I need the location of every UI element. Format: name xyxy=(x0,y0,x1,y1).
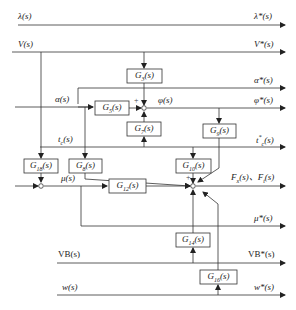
lambda-input-label: λ(s) xyxy=(18,12,31,21)
summing-junction-force xyxy=(191,184,196,189)
lambda-output-label: λ*(s) xyxy=(254,12,272,21)
plus-sign-g5: + xyxy=(134,96,139,105)
block-g8-label: G8(s) xyxy=(69,161,102,172)
plus-sign-g10: + xyxy=(186,173,191,182)
block-g10-label: G10(s) xyxy=(176,161,211,172)
mu-output-label: μ*(s) xyxy=(254,214,273,223)
block-g14-label: G14(s) xyxy=(176,235,210,246)
v-output-label: V*(s) xyxy=(254,40,274,49)
v-input-label: V(s) xyxy=(18,40,33,49)
mu-internal-label: μ(s) xyxy=(61,174,75,183)
tc-output-label: t*c(s) xyxy=(256,134,274,147)
alpha-output-label: α*(s) xyxy=(254,76,273,85)
phi-output-label: φ*(s) xyxy=(254,96,273,105)
block-g16-label: G16(s) xyxy=(200,272,237,283)
alpha-input-label: α(s) xyxy=(55,95,69,104)
block-diagram: + + xyxy=(0,0,296,310)
block-g3-label: G3(s) xyxy=(127,71,162,82)
block-g18-label: G18(s) xyxy=(24,161,58,172)
block-g7-label: G7(s) xyxy=(127,124,161,135)
summing-junction-mu xyxy=(39,184,44,189)
w-input-label: w(s) xyxy=(62,283,78,292)
summing-junction-phi xyxy=(142,106,147,111)
phi-internal-label: φ(s) xyxy=(158,96,172,105)
force-output-label: Fx(s)、Ft(s) xyxy=(231,173,274,184)
vb-output-label: VB*(s) xyxy=(248,250,275,259)
g16-to-sum-line xyxy=(203,192,218,270)
tc-input-label: tc(s) xyxy=(58,135,73,146)
vb-input-label: VB(s) xyxy=(58,250,80,259)
block-g9-label: G9(s) xyxy=(203,126,236,137)
block-g12-label: G12(s) xyxy=(109,181,146,192)
block-g5-label: G5(s) xyxy=(95,103,129,114)
w-output-label: w*(s) xyxy=(254,283,274,292)
